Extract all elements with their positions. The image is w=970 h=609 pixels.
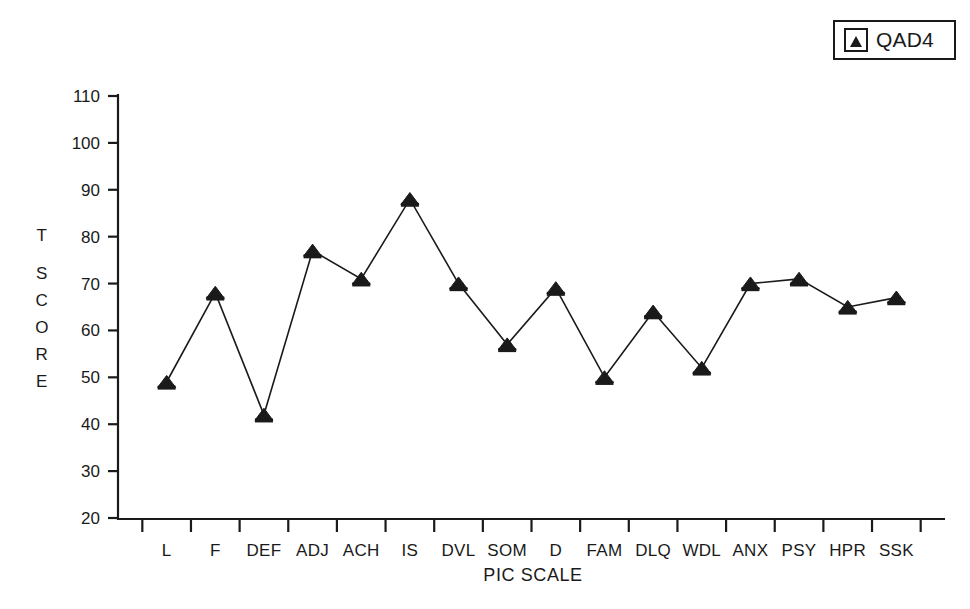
x-tick-label-DEF: DEF <box>246 541 281 560</box>
data-point-base-D <box>547 292 565 296</box>
data-point-base-DEF <box>255 418 273 422</box>
x-tick-label-DVL: DVL <box>442 541 476 560</box>
x-tick-label-L: L <box>162 541 172 560</box>
y-tick-label-110: 110 <box>73 87 100 106</box>
y-tick-label-60: 60 <box>81 321 100 340</box>
series-line-QAD4 <box>167 199 897 415</box>
y-tick-label-20: 20 <box>81 509 100 528</box>
y-tick-label-30: 30 <box>81 462 100 481</box>
data-point-base-HPR <box>839 311 857 315</box>
data-point-base-WDL <box>693 372 711 376</box>
x-tick-label-D: D <box>550 541 563 560</box>
x-tick-label-ANX: ANX <box>732 541 768 560</box>
x-axis: LFDEFADJACHISDVLSOMDFAMDLQWDLANXPSYHPRSS… <box>118 519 945 560</box>
y-axis: 2030405060708090100110 <box>72 87 118 528</box>
x-tick-group: LFDEFADJACHISDVLSOMDFAMDLQWDLANXPSYHPRSS… <box>142 519 920 560</box>
data-point-base-L <box>158 386 176 390</box>
data-point-base-SSK <box>887 301 905 305</box>
data-point-base-DVL <box>450 287 468 291</box>
plot-area: 2030405060708090100110 LFDEFADJACHISDVLS… <box>0 0 970 609</box>
data-point-base-FAM <box>595 381 613 385</box>
data-point-base-ADJ <box>304 254 322 258</box>
y-tick-label-80: 80 <box>81 228 100 247</box>
y-tick-group: 2030405060708090100110 <box>72 87 118 528</box>
x-tick-label-HPR: HPR <box>829 541 866 560</box>
x-tick-label-F: F <box>210 541 221 560</box>
data-point-base-F <box>206 297 224 301</box>
x-tick-label-PSY: PSY <box>782 541 817 560</box>
series-group <box>158 193 906 423</box>
x-tick-label-ACH: ACH <box>343 541 380 560</box>
x-tick-label-ADJ: ADJ <box>296 541 329 560</box>
x-tick-label-DLQ: DLQ <box>635 541 671 560</box>
x-tick-label-IS: IS <box>402 541 419 560</box>
data-point-base-DLQ <box>644 315 662 319</box>
x-tick-label-SSK: SSK <box>879 541 914 560</box>
data-point-base-SOM <box>498 348 516 352</box>
y-tick-label-40: 40 <box>81 415 100 434</box>
y-tick-label-70: 70 <box>81 275 100 294</box>
data-point-base-IS <box>401 203 419 207</box>
x-tick-label-SOM: SOM <box>487 541 527 560</box>
x-tick-label-WDL: WDL <box>682 541 721 560</box>
y-tick-label-50: 50 <box>81 368 100 387</box>
y-tick-label-90: 90 <box>81 181 100 200</box>
data-point-base-ANX <box>741 287 759 291</box>
y-tick-label-100: 100 <box>72 134 100 153</box>
chart-root: QAD4 T S C O R E PIC SCALE 2030405060708… <box>0 0 970 609</box>
x-tick-label-FAM: FAM <box>587 541 623 560</box>
data-point-base-ACH <box>352 282 370 286</box>
data-point-base-PSY <box>790 282 808 286</box>
